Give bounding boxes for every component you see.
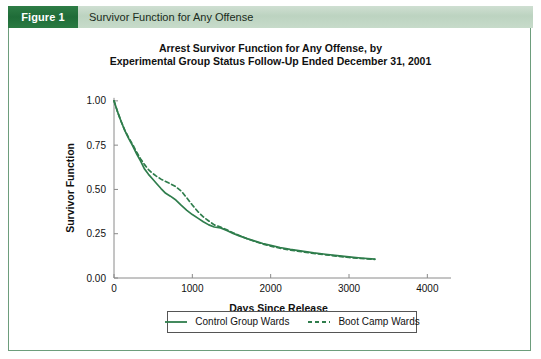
x-tick-label: 2000: [260, 283, 283, 294]
figure-number-badge: Figure 1: [8, 6, 78, 28]
figure-container: Figure 1 Survivor Function for Any Offen…: [8, 6, 533, 353]
legend-entry-bootcamp: Boot Camp Wards: [307, 317, 419, 327]
x-tick-label: 4000: [416, 283, 439, 294]
legend-label-bootcamp: Boot Camp Wards: [338, 317, 419, 327]
y-tick-label: 0.00: [87, 273, 107, 284]
y-tick-label: 0.50: [87, 184, 107, 195]
y-axis-title: Survivor Function: [64, 143, 76, 233]
y-axis-ticks: 0.000.250.500.751.00: [87, 95, 118, 283]
x-axis-ticks: 01000200030004000: [111, 274, 439, 294]
legend-swatch-dashed-line-icon: [307, 317, 331, 327]
plot-series: [114, 101, 375, 260]
legend-swatch-solid-line-icon: [164, 317, 188, 327]
series-line-control-group-wards: [114, 101, 375, 259]
figure-header-bar: Figure 1 Survivor Function for Any Offen…: [8, 6, 533, 28]
figure-caption: Survivor Function for Any Offense: [78, 6, 253, 28]
chart-legend: Control Group Wards Boot Camp Wards: [167, 311, 417, 333]
figure-number-label: Figure 1: [21, 11, 65, 23]
survivor-function-plot: 01000200030004000 0.000.250.500.751.00 D…: [9, 28, 532, 351]
chart-panel: Arrest Survivor Function for Any Offense…: [8, 28, 531, 351]
x-tick-label: 3000: [338, 283, 361, 294]
legend-label-control: Control Group Wards: [195, 317, 289, 327]
y-tick-label: 1.00: [87, 95, 107, 106]
y-tick-label: 0.25: [87, 228, 107, 239]
y-tick-label: 0.75: [87, 140, 107, 151]
plot-axes: [114, 98, 451, 278]
x-tick-label: 1000: [181, 283, 204, 294]
x-tick-label: 0: [111, 283, 117, 294]
legend-entry-control: Control Group Wards: [164, 317, 289, 327]
